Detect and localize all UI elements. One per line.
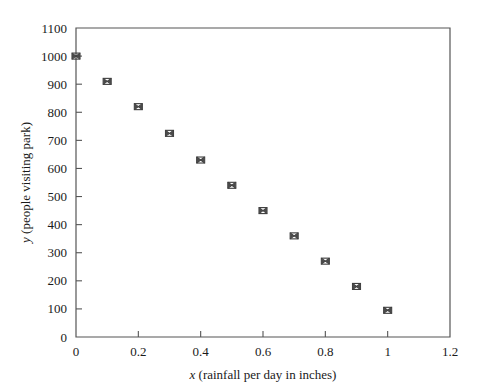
data-point-marker [197,157,205,163]
x-tick-label: 0.4 [193,344,210,359]
plot-axes [76,28,450,337]
y-tick-label: 800 [48,105,68,120]
y-tick-label: 0 [61,330,68,345]
y-tick-label: 100 [48,301,68,316]
data-points [72,53,392,313]
x-tick-label: 0.2 [130,344,146,359]
x-tick-label: 1.2 [442,344,458,359]
x-tick-label: 0 [73,344,80,359]
x-tick-label: 0.6 [255,344,272,359]
data-point-marker [321,258,329,264]
y-tick-label: 500 [48,189,68,204]
y-tick-label: 900 [48,77,68,92]
x-tick-label: 0.8 [317,344,333,359]
data-point-marker [103,78,111,84]
y-tick-label: 400 [48,217,68,232]
axis-frame [76,28,450,337]
data-point-marker [228,182,236,188]
data-point-marker [290,233,298,239]
data-point-marker [384,307,392,313]
x-axis-ticks: 00.20.40.60.811.2 [73,331,458,359]
x-axis-title: x (rainfall per day in inches) [189,367,337,382]
y-tick-label: 200 [48,273,68,288]
y-tick-label: 1100 [41,21,67,36]
scatter-plot-figure: 00.20.40.60.811.2 0100200300400500600700… [0,0,480,390]
y-tick-label: 300 [48,245,68,260]
data-point-marker [134,104,142,110]
y-tick-label: 700 [48,133,68,148]
y-tick-label: 1000 [41,49,67,64]
x-tick-label: 1 [384,344,391,359]
data-point-marker [353,283,361,289]
data-point-marker [259,208,267,214]
data-point-marker [166,130,174,136]
y-axis-title: y (people visiting park) [18,122,33,245]
y-tick-label: 600 [48,161,68,176]
plot-canvas: 00.20.40.60.811.2 0100200300400500600700… [0,0,480,390]
